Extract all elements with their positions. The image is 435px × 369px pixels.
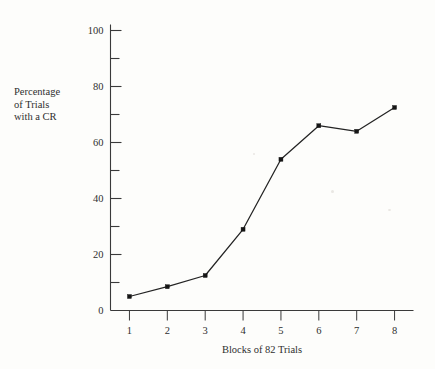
- y-axis-title-line-2: of Trials: [14, 99, 98, 112]
- y-axis-major-ticks: [111, 31, 122, 255]
- scan-speck: [331, 190, 334, 193]
- x-tick-label: 5: [278, 325, 283, 336]
- y-tick-label: 0: [98, 305, 103, 316]
- data-point-marker: [203, 274, 207, 278]
- x-axis-ticks: [129, 311, 394, 321]
- x-tick-label: 1: [127, 325, 132, 336]
- x-tick-label: 2: [165, 325, 170, 336]
- y-tick-label: 40: [93, 193, 104, 204]
- x-axis-title: Blocks of 82 Trials: [222, 344, 302, 355]
- data-point-marker: [241, 227, 245, 231]
- y-tick-label: 100: [88, 25, 104, 36]
- x-tick-label: 3: [203, 325, 208, 336]
- data-point-marker: [317, 124, 321, 128]
- data-series-markers: [127, 106, 396, 299]
- y-axis-minor-ticks: [111, 59, 120, 283]
- y-axis-title-line-3: with a CR: [14, 111, 98, 124]
- line-chart: 020406080100 12345678 Blocks of 82 Trial…: [0, 0, 435, 369]
- figure-container: Percentage of Trials with a CR 020406080…: [0, 0, 435, 369]
- scan-speck: [388, 209, 391, 211]
- x-tick-label: 6: [316, 325, 321, 336]
- x-axis-tick-labels: 12345678: [127, 325, 397, 336]
- scan-speck: [253, 153, 255, 155]
- y-tick-label: 60: [93, 137, 104, 148]
- x-tick-label: 4: [240, 325, 246, 336]
- y-axis-title-line-1: Percentage: [14, 86, 98, 99]
- data-point-marker: [279, 157, 283, 161]
- x-tick-label: 7: [354, 325, 359, 336]
- y-axis-tick-labels: 020406080100: [88, 25, 104, 316]
- x-tick-label: 8: [392, 325, 397, 336]
- data-series-line: [129, 108, 394, 297]
- data-point-marker: [165, 285, 169, 289]
- y-tick-label: 20: [93, 249, 104, 260]
- data-point-marker: [355, 129, 359, 133]
- data-point-marker: [393, 106, 397, 110]
- data-point-marker: [127, 295, 131, 299]
- y-axis-title: Percentage of Trials with a CR: [14, 86, 98, 124]
